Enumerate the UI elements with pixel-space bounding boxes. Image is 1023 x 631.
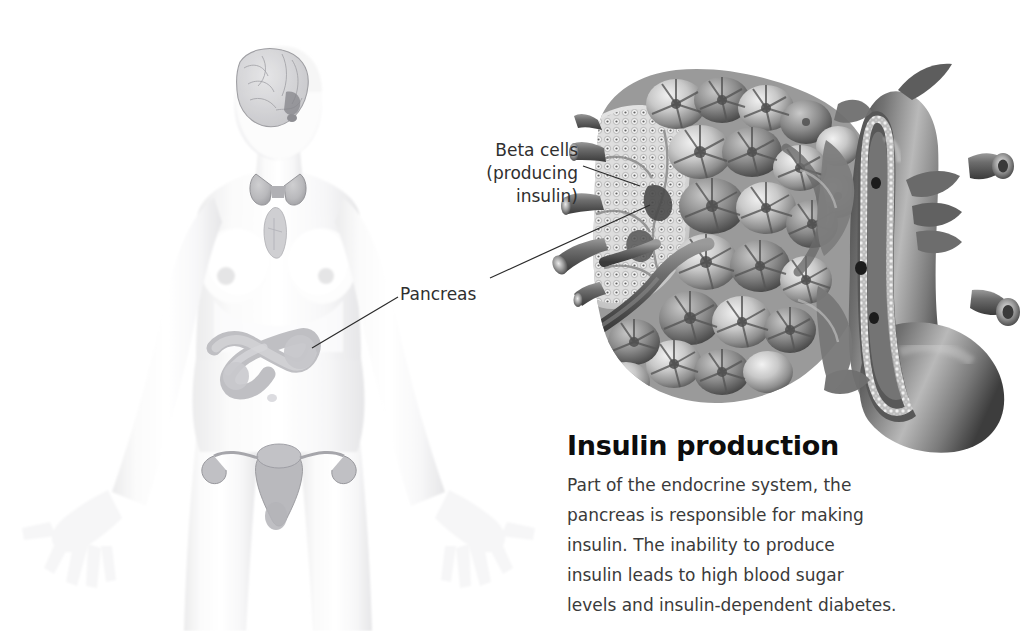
beta-cells-line-2: (producing [486,162,578,185]
pancreas-to-body-leader [312,297,398,348]
caption-body-line-4: insulin leads to high blood sugar [567,560,927,590]
illustration-page: Beta cells (producing insulin) Pancreas … [0,0,1023,631]
caption-body: Part of the endocrine system, the pancre… [567,470,927,620]
caption-body-line-1: Part of the endocrine system, the [567,470,927,500]
beta-cells-line-1: Beta cells [486,139,578,162]
beta-cells-line-3: insulin) [486,185,578,208]
caption-body-line-5: levels and insulin-dependent diabetes. [567,590,927,620]
pancreatic-duct [824,64,1020,453]
caption-body-line-3: insulin. The inability to produce [567,530,927,560]
caption-heading: Insulin production [567,430,839,461]
pancreas-callout: Pancreas [400,283,476,306]
beta-cells-callout: Beta cells (producing insulin) [486,139,578,208]
caption-body-line-2: pancreas is responsible for making [567,500,927,530]
